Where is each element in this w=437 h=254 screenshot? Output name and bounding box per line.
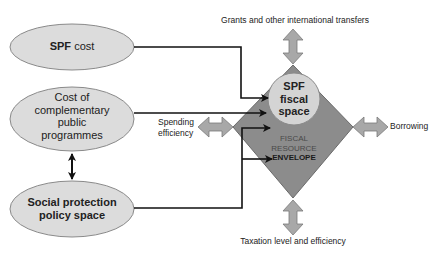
envelope-line1: FISCAL (258, 134, 330, 144)
envelope-label: FISCAL RESOURCE ENVELOPE (258, 134, 330, 163)
borrowing-label: Borrowing (390, 122, 437, 132)
taxation-label: Taxation level and efficiency (223, 237, 363, 247)
spf-cost-rest: cost (71, 40, 94, 52)
spf-cost-bold: SPF (50, 40, 71, 52)
envelope-line2: RESOURCE (258, 144, 330, 154)
connector-spf-cost (134, 47, 268, 98)
borrowing-double-arrow-icon (353, 117, 388, 137)
fiscal-space-line1: SPF (268, 80, 320, 93)
spending-line1: Spending (158, 117, 198, 128)
policy-space-line1: Social protection (10, 196, 134, 209)
fiscal-space-label: SPF fiscal space (268, 80, 320, 118)
policy-space-label: Social protection policy space (10, 196, 134, 222)
spending-efficiency-label: Spending efficiency (158, 117, 198, 138)
fiscal-space-line3: space (268, 105, 320, 118)
policy-space-line2: policy space (10, 209, 134, 222)
complementary-line2: complementary (10, 104, 134, 117)
taxation-double-arrow-icon (283, 200, 303, 235)
spending-line2: efficiency (158, 128, 198, 139)
complementary-line4: programmes (10, 129, 134, 142)
spf-cost-label: SPF cost (10, 40, 134, 53)
complementary-line1: Cost of (10, 91, 134, 104)
spending-double-arrow-icon (198, 117, 233, 137)
grants-label: Grants and other international transfers (215, 16, 375, 26)
complementary-line3: public (10, 116, 134, 129)
fiscal-space-line2: fiscal (268, 93, 320, 106)
envelope-line3: ENVELOPE (258, 153, 330, 163)
complementary-cost-label: Cost of complementary public programmes (10, 91, 134, 141)
grants-double-arrow-icon (283, 29, 303, 64)
